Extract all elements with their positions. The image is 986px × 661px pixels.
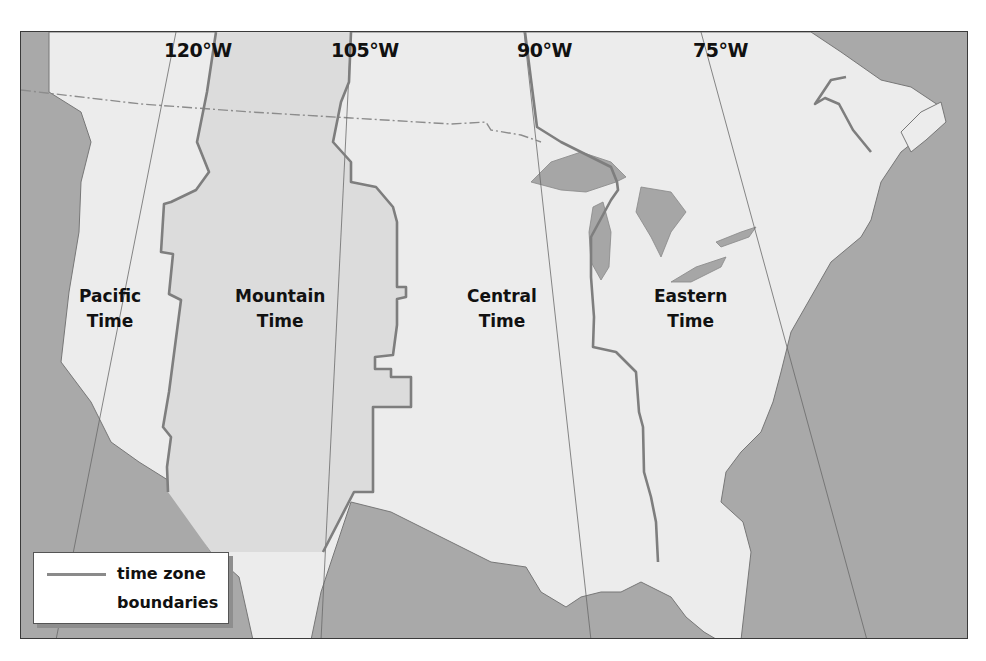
zone-name: Central (467, 284, 537, 309)
zone-label-central: Central Time (467, 284, 537, 334)
boundary-line-swatch-icon (47, 573, 106, 576)
legend-label-line1: time zone (117, 559, 218, 588)
zone-suffix: Time (654, 309, 727, 334)
meridian-label-105w: 105°W (331, 41, 399, 60)
legend-label: time zone boundaries (117, 559, 218, 617)
zone-name: Mountain (235, 284, 325, 309)
zone-label-pacific: Pacific Time (79, 284, 141, 334)
zone-suffix: Time (235, 309, 325, 334)
zone-name: Pacific (79, 284, 141, 309)
map-canvas (21, 32, 968, 639)
zone-suffix: Time (467, 309, 537, 334)
zone-name: Eastern (654, 284, 727, 309)
zone-suffix: Time (79, 309, 141, 334)
map-legend: time zone boundaries (33, 552, 229, 624)
legend-label-line2: boundaries (117, 588, 218, 617)
zone-label-mountain: Mountain Time (235, 284, 325, 334)
meridian-label-90w: 90°W (517, 41, 572, 60)
time-zone-map: 120°W 105°W 90°W 75°W Pacific Time Mount… (20, 31, 968, 639)
zone-label-eastern: Eastern Time (654, 284, 727, 334)
meridian-label-75w: 75°W (693, 41, 748, 60)
meridian-label-120w: 120°W (164, 41, 232, 60)
